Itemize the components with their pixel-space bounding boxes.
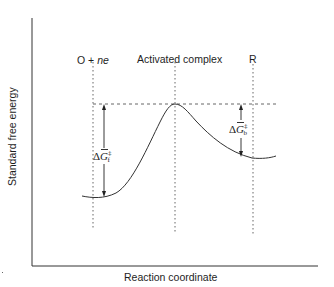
g-bar-symbol: G — [236, 124, 244, 135]
transition-state-label: Activated complex — [137, 54, 222, 65]
left-state-label: O + ne — [77, 55, 109, 66]
y-axis-label: Standard free energy — [6, 87, 18, 186]
arrowhead-up-icon — [239, 104, 243, 110]
energy-diagram — [0, 0, 334, 287]
forward-barrier-label: ΔG‡f — [93, 150, 110, 164]
x-axis-label: Reaction coordinate — [124, 272, 217, 283]
right-state-label: R — [249, 54, 257, 65]
delta-symbol: Δ — [93, 150, 100, 162]
delta-symbol: Δ — [229, 123, 236, 135]
left-state-main: O + — [77, 54, 97, 66]
b-subscript: b — [244, 129, 248, 137]
left-state-italic: ne — [97, 54, 109, 66]
stray-mark — [2, 272, 3, 273]
g-bar-symbol: G — [100, 151, 108, 162]
arrowhead-up-icon — [102, 104, 106, 110]
backward-barrier-label: ΔG‡b — [229, 123, 247, 137]
